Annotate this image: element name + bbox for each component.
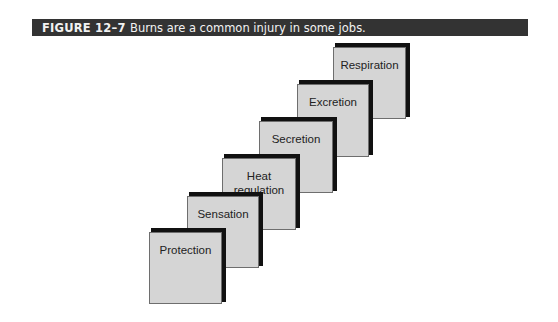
step-label-box: Protection — [149, 232, 222, 304]
step-label: Protection — [160, 243, 212, 257]
figure-caption: Burns are a common injury in some jobs. — [130, 21, 366, 35]
step-label: Secretion — [272, 132, 321, 146]
step-label: Respiration — [340, 58, 398, 72]
figure-label: FIGURE 12–7 — [42, 21, 126, 35]
figure-title-bar: FIGURE 12–7 Burns are a common injury in… — [32, 19, 528, 36]
step-box: Protection — [149, 228, 226, 304]
step-label: Excretion — [309, 95, 357, 109]
step-label: Sensation — [197, 207, 248, 221]
